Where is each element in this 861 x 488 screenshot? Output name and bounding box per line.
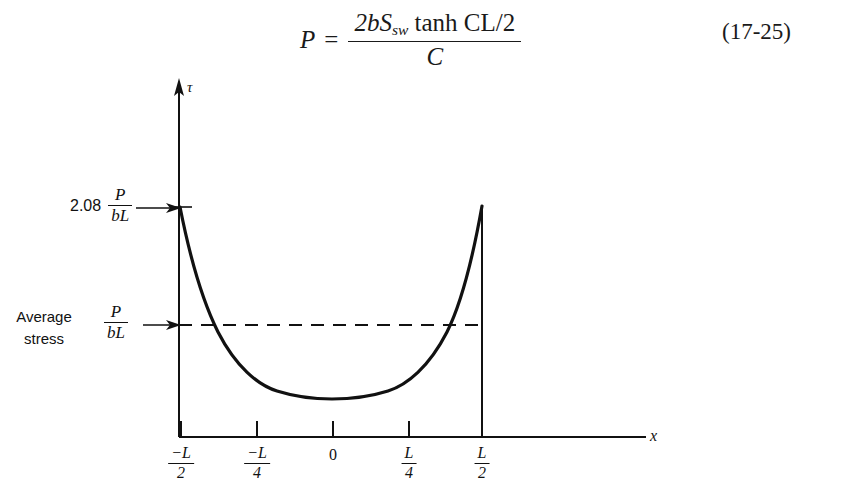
figure-page: P = 2bSsw tanh CL/2 C (17-25)	[0, 0, 861, 488]
average-stress-numerator: P	[108, 303, 124, 322]
average-stress-caption: Average stress	[2, 306, 86, 350]
x-tick-label-l-over-2: L 2	[475, 444, 490, 482]
tick-value: 0	[329, 446, 337, 463]
tick-denominator: 2	[475, 464, 489, 482]
x-axis-ticks	[181, 421, 482, 437]
tick-denominator: 2	[174, 464, 188, 482]
x-tick-label-minus-l-over-2: −L 2	[168, 444, 194, 482]
y-axis	[174, 78, 184, 437]
plot-canvas	[0, 0, 861, 488]
tick-denominator: 4	[250, 464, 264, 482]
average-stress-caption-line1: Average	[2, 306, 86, 328]
y-axis-label-tau: τ	[187, 79, 192, 96]
average-stress-denominator: bL	[104, 323, 128, 342]
peak-coefficient: 2.08	[70, 197, 101, 215]
peak-fraction-denominator: bL	[108, 206, 132, 225]
tick-numerator: L	[475, 445, 490, 463]
average-stress-fraction: P bL	[104, 303, 128, 342]
average-stress-arrow	[143, 320, 181, 330]
x-tick-label-minus-l-over-4: −L 4	[244, 444, 270, 482]
average-stress-caption-line2: stress	[2, 328, 86, 350]
tick-numerator: L	[402, 445, 417, 463]
peak-fraction-numerator: P	[112, 186, 128, 205]
plot-figure: 2.08 P bL Average stress P bL τ x −L	[0, 0, 861, 488]
tick-denominator: 4	[402, 464, 416, 482]
shear-stress-curve	[180, 206, 482, 399]
x-axis-label-x: x	[650, 427, 657, 445]
tick-numerator: −L	[244, 445, 270, 463]
peak-value-arrow	[136, 203, 181, 213]
tick-numerator: −L	[168, 445, 194, 463]
peak-fraction: P bL	[108, 186, 132, 225]
x-tick-label-l-over-4: L 4	[402, 444, 417, 482]
peak-stress-label: 2.08 P bL	[70, 186, 132, 225]
x-tick-label-zero: 0	[329, 446, 337, 464]
